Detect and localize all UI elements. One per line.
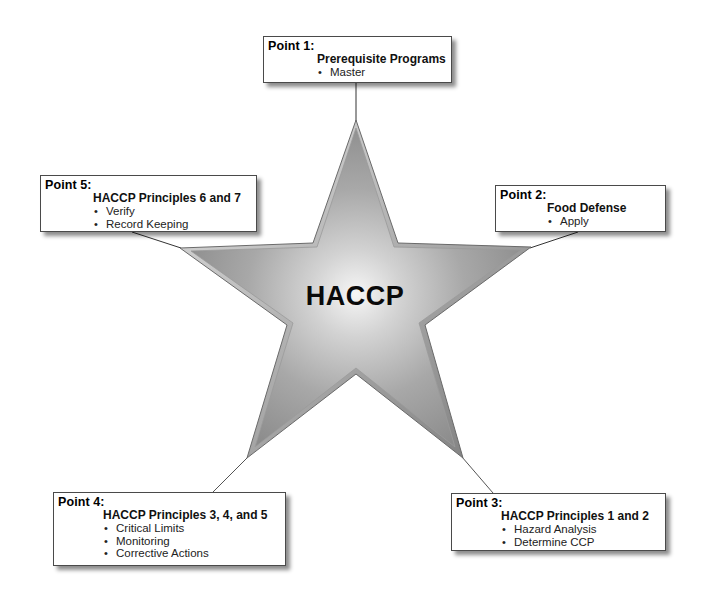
point-5-heading: HACCP Principles 6 and 7 bbox=[93, 192, 252, 205]
list-item: Hazard Analysis bbox=[501, 523, 661, 536]
point-2-heading: Food Defense bbox=[547, 202, 661, 215]
connector-point-3 bbox=[462, 457, 493, 493]
point-5-title: Point 5: bbox=[45, 178, 252, 192]
list-item: Verify bbox=[93, 205, 252, 218]
point-1-box: Point 1: Prerequisite Programs Master bbox=[263, 36, 452, 83]
point-4-list: Critical Limits Monitoring Corrective Ac… bbox=[103, 522, 281, 560]
point-5-list: Verify Record Keeping bbox=[93, 205, 252, 230]
list-item: Master bbox=[317, 66, 447, 79]
point-2-box: Point 2: Food Defense Apply bbox=[495, 185, 666, 232]
connector-point-2 bbox=[530, 232, 578, 248]
connector-point-5 bbox=[132, 232, 181, 248]
point-2-title: Point 2: bbox=[500, 188, 661, 202]
point-1-list: Master bbox=[317, 66, 447, 79]
list-item: Apply bbox=[547, 215, 661, 228]
point-4-box: Point 4: HACCP Principles 3, 4, and 5 Cr… bbox=[53, 492, 286, 566]
list-item: Monitoring bbox=[103, 535, 281, 548]
list-item: Record Keeping bbox=[93, 218, 252, 231]
connector-point-4 bbox=[213, 457, 248, 492]
point-2-list: Apply bbox=[547, 215, 661, 228]
point-5-box: Point 5: HACCP Principles 6 and 7 Verify… bbox=[40, 175, 257, 232]
point-3-box: Point 3: HACCP Principles 1 and 2 Hazard… bbox=[451, 493, 666, 551]
point-1-heading: Prerequisite Programs bbox=[317, 53, 447, 66]
point-3-list: Hazard Analysis Determine CCP bbox=[501, 523, 661, 548]
point-3-heading: HACCP Principles 1 and 2 bbox=[501, 510, 661, 523]
list-item: Critical Limits bbox=[103, 522, 281, 535]
point-1-title: Point 1: bbox=[268, 39, 447, 53]
star-center-label: HACCP bbox=[300, 281, 410, 311]
point-4-title: Point 4: bbox=[58, 495, 281, 509]
point-3-title: Point 3: bbox=[456, 496, 661, 510]
point-4-heading: HACCP Principles 3, 4, and 5 bbox=[103, 509, 281, 522]
list-item: Corrective Actions bbox=[103, 547, 281, 560]
list-item: Determine CCP bbox=[501, 536, 661, 549]
